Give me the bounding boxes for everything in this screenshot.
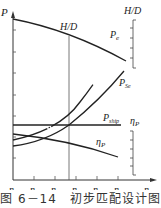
- x-axis-arrow-icon: [150, 178, 157, 182]
- hd-axis-label: H/D: [123, 5, 142, 16]
- figure-caption: 图 6－14 初步匹配设计图: [0, 190, 161, 208]
- y-axis-label: P: [0, 6, 8, 18]
- pship-label: Pship: [102, 112, 119, 124]
- y-axis: P: [0, 6, 16, 180]
- etap-right-axis: ηP: [130, 115, 140, 175]
- hd-marker: H/D: [59, 21, 78, 180]
- pse-label: PSe: [118, 77, 131, 89]
- y-axis-arrow-icon: [11, 11, 15, 18]
- pe-label: Pe: [109, 29, 119, 42]
- hd-right-axis: H/D: [123, 5, 142, 68]
- etap-label: ηP: [96, 136, 106, 149]
- x-axis: n1 n2 n3 n4 n5 n6 n: [9, 176, 157, 190]
- etap-axis-label: ηP: [130, 115, 140, 128]
- matching-design-chart: P n1 n2 n3 n4 n5 n6 n H/D H/D: [0, 0, 161, 190]
- series-pse-curve: [13, 71, 124, 146]
- hd-marker-label: H/D: [59, 21, 78, 32]
